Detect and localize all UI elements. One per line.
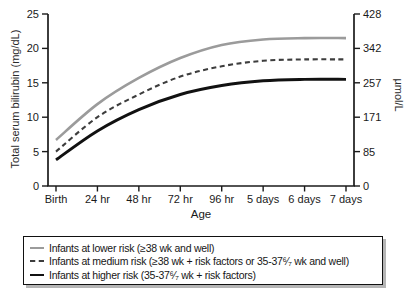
lower-risk-line-sample [30, 247, 44, 249]
series-path-higher-risk [56, 79, 346, 160]
legend-label-higher-risk: Infants at higher risk (35-37⁶⁄₇ wk + ri… [49, 269, 256, 281]
x-tick-label: 96 hr [209, 193, 234, 205]
y-right-tick-label: 428 [363, 8, 381, 20]
y-axis-label-right: µmol/L [393, 75, 405, 115]
y-right-tick-label: 257 [363, 77, 381, 89]
y-left-tick-label: 15 [27, 77, 39, 89]
legend-item-lower-risk: Infants at lower risk (≥38 wk and well) [30, 241, 378, 255]
bilirubin-line-chart: 0058510171152572034225428Birth24 hr48 hr… [0, 0, 411, 232]
x-tick-label: 6 days [288, 193, 321, 205]
x-tick-label: 7 days [330, 193, 363, 205]
x-tick-label: 48 hr [126, 193, 151, 205]
legend-item-medium-risk: Infants at medium risk (≥38 wk + risk fa… [30, 255, 378, 269]
y-left-tick-label: 5 [33, 146, 39, 158]
x-axis-title: Age [191, 208, 211, 220]
x-tick-label: 72 hr [168, 193, 193, 205]
phototherapy-nomogram-figure: Total serum bilirubin (mg/dL) 0058510171… [0, 0, 411, 289]
legend-label-lower-risk: Infants at lower risk (≥38 wk and well) [49, 242, 214, 254]
x-tick-label: 5 days [247, 193, 280, 205]
y-left-tick-label: 10 [27, 111, 39, 123]
y-left-tick-label: 25 [27, 8, 39, 20]
y-left-tick-label: 0 [33, 180, 39, 192]
higher-risk-line-sample [30, 274, 44, 276]
y-right-tick-label: 85 [363, 146, 375, 158]
y-right-tick-label: 171 [363, 111, 381, 123]
y-right-tick-label: 342 [363, 42, 381, 54]
medium-risk-line-sample [30, 260, 44, 262]
legend-item-higher-risk: Infants at higher risk (35-37⁶⁄₇ wk + ri… [30, 268, 378, 282]
y-left-tick-label: 20 [27, 42, 39, 54]
legend-label-medium-risk: Infants at medium risk (≥38 wk + risk fa… [49, 255, 349, 267]
x-tick-label: 24 hr [85, 193, 110, 205]
x-tick-label: Birth [45, 193, 68, 205]
y-right-tick-label: 0 [363, 180, 369, 192]
legend-box: Infants at lower risk (≥38 wk and well) … [23, 236, 383, 285]
series-path-medium-risk [56, 59, 346, 151]
